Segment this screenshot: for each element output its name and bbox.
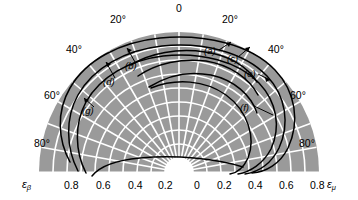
curve-label-e: (e) — [244, 68, 256, 79]
curve-label-d: (d) — [103, 76, 115, 87]
angle-label-right-60: 60° — [290, 89, 306, 101]
radial-tick-right-04: 0.4 — [248, 179, 263, 191]
radial-tick-left-04: 0.4 — [128, 179, 143, 191]
angle-label-left-40: 40° — [66, 43, 82, 55]
axis-label-left-subscript: β — [27, 183, 31, 192]
angle-label-right-20: 20° — [222, 13, 238, 25]
radial-tick-left-08: 0.8 — [64, 179, 79, 191]
angle-label-left-80: 80° — [34, 137, 50, 149]
radial-tick-right-06: 0.6 — [279, 179, 294, 191]
angle-label-top-0: 0 — [176, 2, 182, 14]
axis-label-right: εμ — [327, 178, 336, 192]
curve-label-c: (c) — [227, 53, 238, 64]
angle-label-right-80: 80° — [299, 137, 315, 149]
radial-tick-center-0: 0 — [194, 179, 200, 191]
radial-tick-left-06: 0.6 — [96, 179, 111, 191]
radial-tick-right-02: 0.2 — [217, 179, 232, 191]
curve-label-b: (b) — [125, 60, 137, 71]
curve-label-f: (f) — [240, 102, 249, 113]
axis-label-right-subscript: μ — [332, 183, 336, 192]
curve-label-a: (a) — [204, 45, 216, 56]
curve-label-g: (g) — [82, 105, 94, 116]
radial-tick-right-08: 0.8 — [310, 179, 325, 191]
angle-label-left-20: 20° — [110, 13, 126, 25]
polar-chart-figure: 0 20° 20° 40° 40° 60° 60° 80° 80° 0.8 0.… — [0, 0, 358, 200]
angle-label-left-60: 60° — [44, 89, 60, 101]
angle-label-right-40: 40° — [268, 43, 284, 55]
axis-label-left: εβ — [22, 178, 31, 192]
radial-tick-left-02: 0.2 — [158, 179, 173, 191]
